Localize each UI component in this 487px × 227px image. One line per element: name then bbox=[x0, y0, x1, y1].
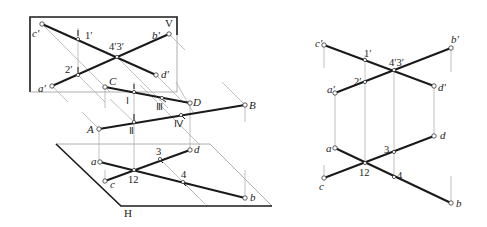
label-2-prime: 2′ bbox=[65, 64, 73, 75]
label-1-prime: 1′ bbox=[85, 30, 93, 41]
label-c-prime-right: c′ bbox=[315, 37, 323, 49]
label-c-prime: c′ bbox=[32, 27, 40, 39]
label-4-right: 4 bbox=[397, 170, 403, 181]
label-C: C bbox=[109, 75, 117, 87]
label-d: d bbox=[194, 143, 200, 155]
label-a: a bbox=[91, 155, 97, 167]
line-cd-right bbox=[324, 136, 434, 178]
line-AB bbox=[99, 105, 245, 129]
label-a-right: a bbox=[326, 142, 332, 154]
label-D: D bbox=[192, 96, 201, 108]
line-ab bbox=[100, 162, 245, 198]
label-1-prime-right: 1′ bbox=[364, 48, 372, 59]
right-orthographic-diagram: c′ b′ a′ d′ 1′ 2′ 4′3′ a d c b 12 3 4 bbox=[315, 33, 462, 209]
label-II: Ⅱ bbox=[129, 125, 134, 136]
label-4: 4 bbox=[181, 169, 187, 180]
label-c: c bbox=[110, 178, 115, 190]
label-d-prime-right: d′ bbox=[438, 81, 447, 93]
points-right bbox=[322, 43, 453, 205]
label-A: A bbox=[86, 123, 94, 135]
label-43-prime-right: 4′3′ bbox=[389, 57, 404, 68]
label-b: b bbox=[250, 191, 256, 203]
h-plane-label: H bbox=[124, 207, 132, 219]
line-c'd'-right bbox=[324, 45, 434, 86]
v-plane-label: V bbox=[165, 17, 173, 29]
line-segments-right bbox=[324, 45, 451, 203]
label-43-prime: 4′3′ bbox=[109, 41, 124, 52]
projection-lines-diagonal bbox=[42, 24, 245, 204]
label-a-prime: a′ bbox=[38, 82, 47, 94]
label-b-prime-right: b′ bbox=[451, 33, 460, 45]
label-3-right: 3 bbox=[384, 144, 389, 155]
left-pictorial-diagram: V H c′ b′ a′ d′ 1′ 2′ 4′3′ C D A B Ⅰ Ⅱ Ⅲ… bbox=[30, 17, 272, 219]
label-I: Ⅰ bbox=[126, 95, 129, 106]
label-a-prime-right: a′ bbox=[327, 83, 336, 95]
line-segments-left bbox=[42, 24, 245, 198]
label-c-right: c bbox=[319, 180, 324, 192]
label-d-right: d bbox=[440, 129, 446, 141]
line-c'd' bbox=[42, 24, 156, 75]
label-12-right: 12 bbox=[359, 167, 370, 178]
label-2-prime-right: 2′ bbox=[354, 76, 362, 87]
label-3: 3 bbox=[156, 146, 161, 157]
label-IV: Ⅳ bbox=[174, 118, 184, 129]
label-III: Ⅲ bbox=[156, 101, 163, 112]
label-d-prime: d′ bbox=[161, 68, 170, 80]
crossing-lines-projection-diagram: V H c′ b′ a′ d′ 1′ 2′ 4′3′ C D A B Ⅰ Ⅱ Ⅲ… bbox=[0, 0, 487, 227]
label-b-prime: b′ bbox=[152, 29, 161, 41]
label-B: B bbox=[249, 99, 256, 111]
label-12: 12 bbox=[128, 174, 139, 185]
projection-lines-vertical bbox=[78, 28, 245, 198]
label-b-right: b bbox=[456, 197, 462, 209]
